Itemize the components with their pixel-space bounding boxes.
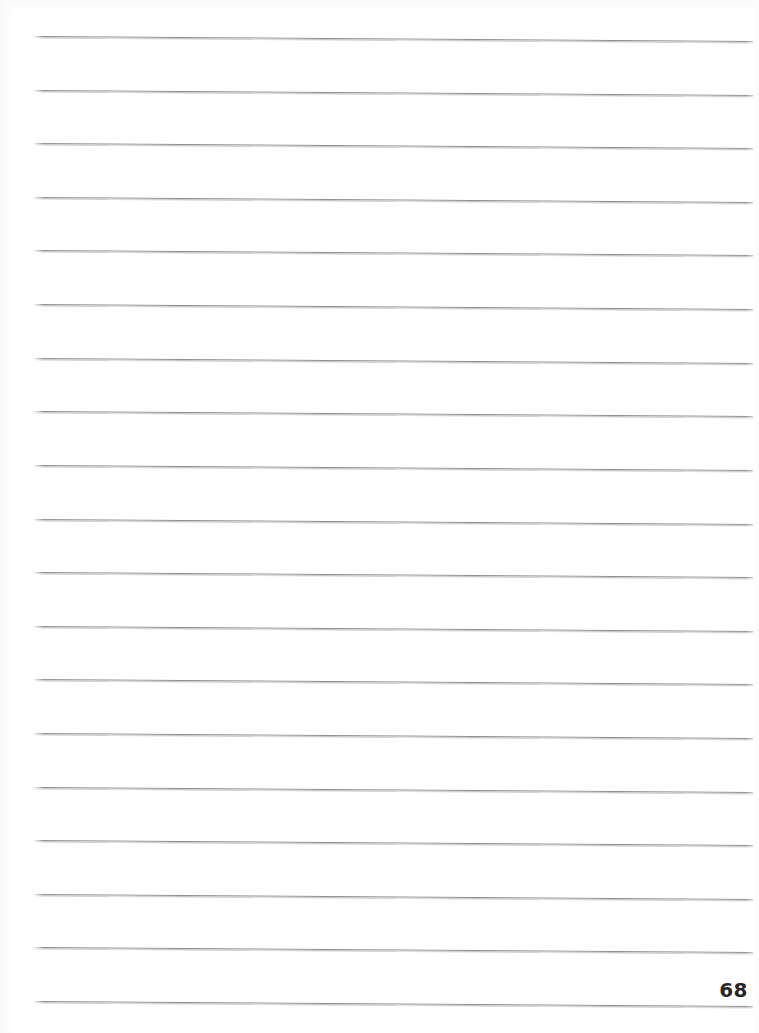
- rule-line: [34, 840, 753, 847]
- rule-line: [34, 411, 753, 418]
- rule-line: [34, 1001, 753, 1008]
- rule-line: [34, 36, 753, 43]
- rule-line: [34, 250, 753, 257]
- rule-line: [34, 197, 753, 204]
- rule-line: [34, 465, 753, 472]
- scanned-notebook-page: 68: [0, 0, 759, 1033]
- rule-line: [34, 358, 753, 365]
- rule-line: [34, 143, 753, 150]
- rule-line: [34, 947, 753, 954]
- rule-line: [34, 90, 753, 97]
- rule-line: [34, 304, 753, 311]
- rule-line: [34, 787, 753, 794]
- rule-line: [34, 894, 753, 901]
- ruled-lines-container: [0, 0, 759, 1033]
- rule-line: [34, 679, 753, 686]
- rule-line: [34, 733, 753, 740]
- rule-line: [34, 572, 753, 579]
- rule-line: [34, 519, 753, 526]
- rule-line: [34, 626, 753, 633]
- page-number: 68: [719, 980, 748, 1000]
